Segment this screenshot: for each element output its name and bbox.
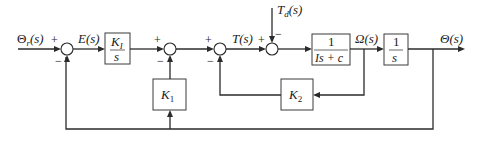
velocity-label: Ω(s) <box>355 31 378 46</box>
arrow-icon <box>217 55 223 62</box>
plant-denominator: Is + c <box>314 51 344 65</box>
summing-junction-1 <box>61 43 73 55</box>
sum2-plus-sign: + <box>154 33 161 47</box>
sum3-minus-sign: − <box>207 54 214 68</box>
arrow-icon <box>377 46 384 52</box>
error-label: E(s) <box>77 31 100 46</box>
integrator-denominator: s <box>392 50 397 65</box>
sum1-plus-sign: + <box>51 33 58 47</box>
arrow-icon <box>167 110 173 117</box>
arrow-icon <box>305 46 312 52</box>
integrator-numerator: 1 <box>393 34 400 49</box>
sum1-minus-sign: − <box>55 54 62 68</box>
arrow-icon <box>458 46 465 52</box>
sum4-minus-sign: − <box>275 27 282 41</box>
k2-feedback-line <box>220 57 281 95</box>
arrow-icon <box>64 55 70 62</box>
arrow-icon <box>167 55 173 62</box>
reference-label: Θr(s) <box>17 31 44 48</box>
sum2-minus-sign: − <box>157 54 164 68</box>
sum3-plus-sign: + <box>205 33 212 47</box>
integral-gain-denominator: s <box>114 49 119 64</box>
torque-label: T(s) <box>232 31 253 46</box>
summing-junction-4 <box>266 43 278 55</box>
sum4-plus-sign: + <box>258 33 265 47</box>
plant-numerator: 1 <box>328 34 335 49</box>
arrow-icon <box>313 92 320 98</box>
arrow-icon <box>98 46 105 52</box>
summing-junction-2 <box>164 43 176 55</box>
disturbance-label: Td(s) <box>277 2 302 19</box>
block-diagram: KI s 1 Is + c 1 s K1 K2 Θr(s) E(s) T(s) … <box>0 0 480 143</box>
output-label: Θ(s) <box>440 31 463 46</box>
summing-junction-3 <box>214 43 226 55</box>
